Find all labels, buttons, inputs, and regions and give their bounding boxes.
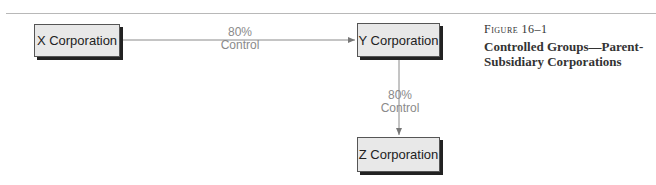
node-label: Z Corporation bbox=[359, 147, 438, 162]
node-label: X Corporation bbox=[37, 33, 117, 48]
edge-text: Control bbox=[210, 39, 270, 52]
edge-text: Control bbox=[370, 102, 430, 115]
edge-label-x-y: 80% Control bbox=[210, 26, 270, 52]
figure-title: Controlled Groups—Parent-Subsidiary Corp… bbox=[484, 39, 654, 69]
edge-label-y-z: 80% Control bbox=[370, 89, 430, 115]
figure-caption: Figure 16–1 Controlled Groups—Parent-Sub… bbox=[484, 22, 654, 69]
node-y-corporation: Y Corporation bbox=[357, 23, 440, 57]
node-z-corporation: Z Corporation bbox=[357, 137, 440, 172]
figure-number: Figure 16–1 bbox=[484, 22, 654, 37]
node-label: Y Corporation bbox=[359, 33, 439, 48]
node-x-corporation: X Corporation bbox=[34, 24, 120, 57]
